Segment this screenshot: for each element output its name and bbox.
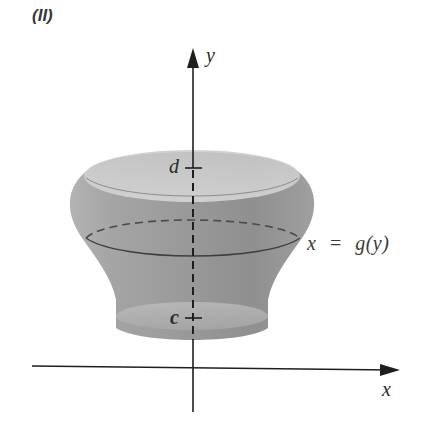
solid-of-revolution-figure: (II) y x d c x = g(y)	[0, 0, 424, 448]
y-axis-arrowhead	[187, 48, 199, 68]
y-axis-label: y	[206, 44, 215, 67]
tick-label-d: d	[169, 155, 179, 178]
diagram-canvas	[0, 0, 424, 448]
tick-label-c: c	[170, 306, 179, 329]
curve-equation-label: x = g(y)	[307, 232, 389, 255]
equation-rhs: g(y)	[355, 232, 389, 254]
x-axis	[32, 366, 392, 370]
equation-lhs: x	[307, 232, 316, 254]
equation-equals: =	[330, 232, 342, 254]
panel-label: (II)	[32, 6, 53, 26]
x-axis-arrowhead	[380, 364, 400, 376]
x-axis-label: x	[382, 378, 391, 401]
